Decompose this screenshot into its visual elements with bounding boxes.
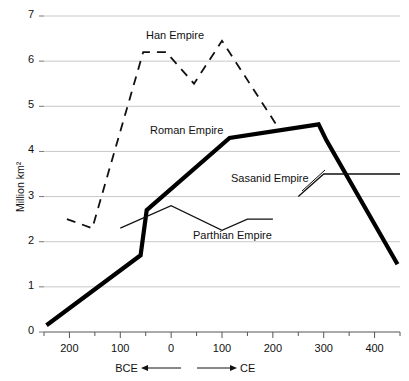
sasanid-leader-line [302,170,325,191]
series-line-roman-empire [47,124,398,325]
plot-area [0,0,409,381]
empire-size-line-chart: Million km² 7 6 5 4 3 2 1 0 200 100 0 10… [0,0,409,381]
